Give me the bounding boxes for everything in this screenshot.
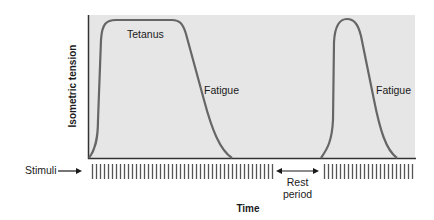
stimuli-arrow	[58, 168, 82, 174]
rest-label: Rest	[287, 176, 309, 188]
stimuli-train-second	[325, 164, 413, 179]
fatigue-label-first: Fatigue	[204, 84, 239, 96]
stimuli-train-first	[93, 164, 273, 179]
period-label: period	[283, 188, 312, 200]
fatigue-label-second: Fatigue	[376, 84, 411, 96]
y-axis-label: Isometric tension	[67, 45, 78, 128]
rest-period-arrow	[276, 168, 319, 174]
tetanus-fatigue-diagram: Tetanus Fatigue Fatigue Isometric tensio…	[0, 0, 434, 220]
stimuli-label: Stimuli	[25, 164, 57, 176]
x-axis-label: Time	[236, 203, 260, 214]
tetanus-label: Tetanus	[127, 28, 164, 40]
